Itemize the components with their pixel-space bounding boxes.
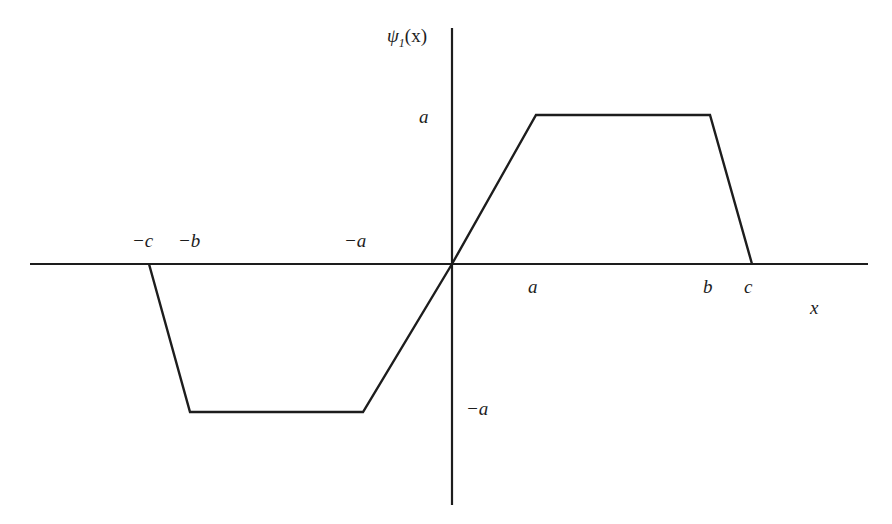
y-axis-title-argument: (x): [405, 25, 427, 46]
x-tick-label-b: b: [703, 277, 713, 296]
x-tick-label-c: c: [744, 277, 752, 296]
y-tick-label-neg-a: −a: [466, 399, 488, 418]
x-tick-label-a: a: [528, 277, 538, 296]
x-tick-label-neg-b: −b: [178, 231, 200, 250]
figure-canvas: ψ1(x) x a −a −c −b −a a b c: [0, 0, 892, 524]
plot-svg: [0, 0, 892, 524]
x-tick-label-neg-a: −a: [344, 231, 366, 250]
x-axis-title: x: [810, 298, 818, 317]
y-tick-label-a: a: [419, 107, 429, 126]
y-axis-title-psi: ψ: [387, 25, 399, 46]
x-tick-label-neg-c: −c: [132, 231, 153, 250]
y-axis-title: ψ1(x): [387, 26, 427, 49]
